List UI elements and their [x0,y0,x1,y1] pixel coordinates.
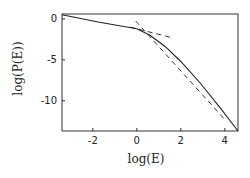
asymptote-dashed-line [136,21,225,120]
x-tick-label: 2 [178,135,184,146]
y-axis-label: log(P(E)) [11,41,25,95]
y-tick-label: 0 [51,13,57,24]
x-axis-label: log(E) [128,152,165,166]
plot-series [62,15,238,131]
y-axis-ticks: 0-5-10 [41,13,65,106]
plot-frame [62,14,238,131]
x-tick-label: -2 [88,135,98,146]
x-tick-label: 4 [222,135,228,146]
x-tick-label: 0 [134,135,140,146]
y-tick-label: -10 [41,95,57,106]
chart: -2024 0-5-10 log(E) log(P(E)) [0,0,250,178]
y-tick-label: -5 [47,54,57,65]
